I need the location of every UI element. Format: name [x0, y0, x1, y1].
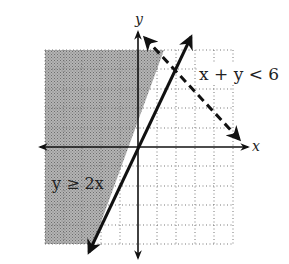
x-axis-label: x — [252, 138, 260, 154]
inequality-label-y-2x: y ≥ 2x — [51, 174, 104, 193]
boundary-line-x-plus-y-6 — [145, 38, 239, 139]
inequality-graph: y x x + y < 6 y ≥ 2x — [0, 0, 289, 264]
y-axis-label: y — [134, 11, 144, 27]
inequality-label-x-plus-y: x + y < 6 — [199, 64, 279, 84]
